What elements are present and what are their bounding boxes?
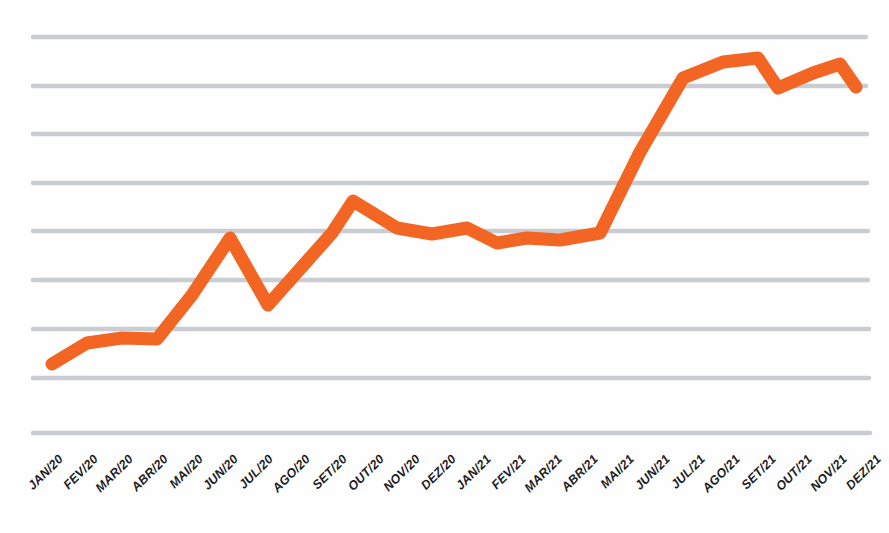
line-chart: JAN/20FEV/20MAR/20ABR/20MAI/20JUN/20JUL/… xyxy=(0,0,889,533)
data-series xyxy=(52,58,856,364)
series-line xyxy=(52,58,856,364)
chart-canvas xyxy=(0,0,889,533)
